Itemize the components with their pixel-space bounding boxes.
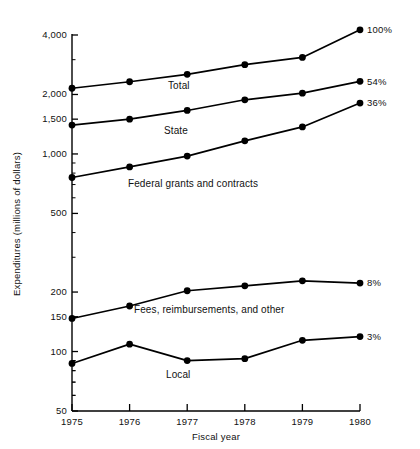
series-end-label-2: 36% [367,97,387,108]
data-point [299,124,306,131]
data-point [184,287,191,294]
series-inline-label-0: Total [168,80,190,91]
data-point [126,341,133,348]
x-axis-title: Fiscal year [192,431,240,442]
y-axis-tick-labels: 4,0002,0001,5001,00050020015010050 [42,29,67,416]
data-point [126,78,133,85]
y-tick-label: 4,000 [42,29,67,40]
data-point [241,282,248,289]
series-inline-labels: TotalStateFederal grants and contractsFe… [128,80,285,380]
series-inline-label-3: Fees, reimbursements, and other [134,304,285,315]
chart-svg: 4,0002,0001,5001,00050020015010050 19751… [0,0,420,449]
data-point [69,85,76,92]
data-point [184,357,191,364]
series-inline-label-2: Federal grants and contracts [128,178,258,189]
data-point [126,163,133,170]
data-point [184,71,191,78]
series-inline-label-1: State [164,125,188,136]
expenditures-log-line-chart: 4,0002,0001,5001,00050020015010050 19751… [0,0,420,449]
series-line-1 [72,81,360,125]
data-point [357,78,364,85]
data-point [241,137,248,144]
data-point [69,315,76,322]
y-tick-label: 500 [51,207,67,218]
x-tick-label: 1975 [61,416,83,427]
series-end-label-4: 3% [367,331,381,342]
series-end-label-0: 100% [367,24,392,35]
x-axis-tick-labels: 197519761977197819791980 [61,416,371,427]
y-axis-title: Expenditures (millions of dollars) [11,152,22,296]
y-tick-label: 1,500 [42,113,67,124]
data-point [299,54,306,61]
y-tick-label: 1,000 [42,148,67,159]
x-tick-label: 1977 [176,416,198,427]
y-tick-label: 2,000 [42,88,67,99]
data-point [241,355,248,362]
data-point [184,107,191,114]
data-point [299,337,306,344]
data-point [69,174,76,181]
data-point [69,122,76,129]
series-line-0 [72,30,360,88]
data-point [126,116,133,123]
series-line-2 [72,103,360,177]
data-point [126,303,133,310]
data-point [357,100,364,107]
y-tick-label: 50 [56,405,67,416]
data-point [357,333,364,340]
x-axis-major-ticks [72,404,360,411]
y-tick-label: 150 [51,311,67,322]
data-point [357,26,364,33]
series-inline-label-4: Local [166,369,190,380]
data-point [299,277,306,284]
y-tick-label: 200 [51,286,67,297]
series-layer [69,26,364,366]
data-point [357,280,364,287]
y-tick-label: 100 [51,346,67,357]
x-tick-label: 1976 [119,416,141,427]
series-end-labels: 100%54%36%8%3% [367,24,392,342]
x-tick-label: 1978 [234,416,256,427]
data-point [184,153,191,160]
data-point [299,90,306,97]
series-line-4 [72,337,360,364]
series-end-label-1: 54% [367,76,387,87]
data-point [69,360,76,367]
series-end-label-3: 8% [367,277,381,288]
data-point [241,61,248,68]
data-point [241,96,248,103]
x-tick-label: 1979 [291,416,313,427]
x-axis: 197519761977197819791980 [61,404,371,427]
x-tick-label: 1980 [349,416,371,427]
